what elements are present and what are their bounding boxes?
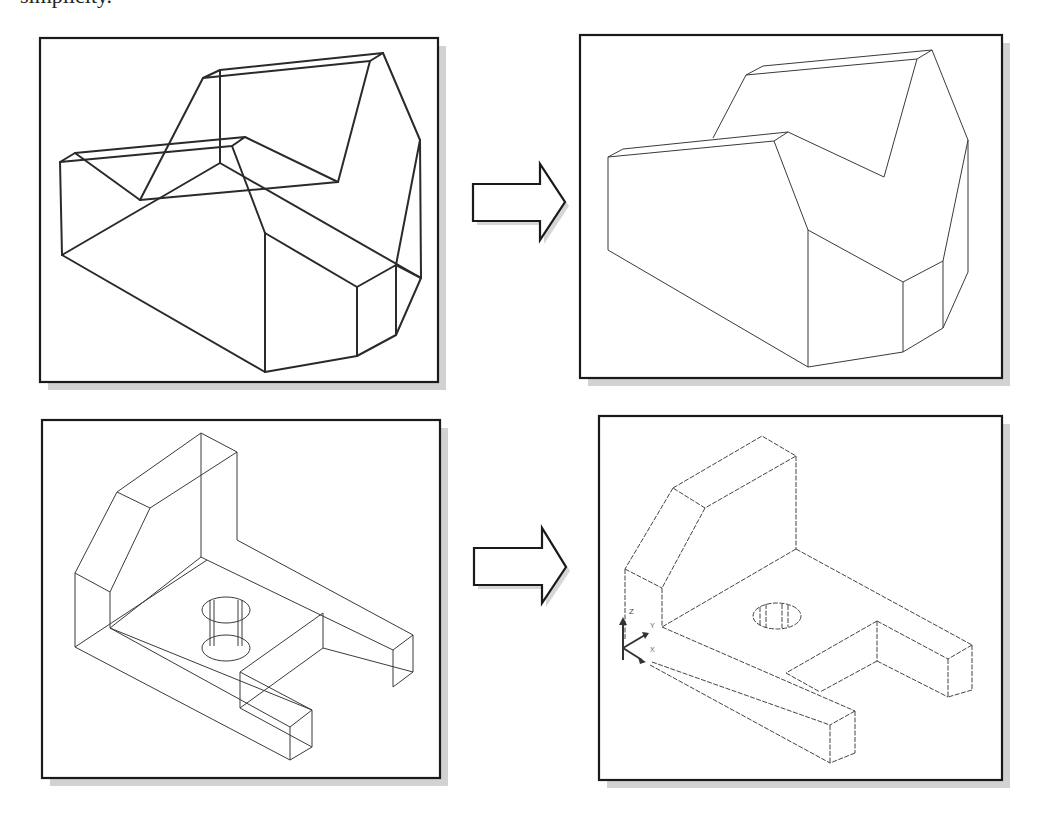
figure-panel-3 xyxy=(42,420,448,786)
figure-panel-1 xyxy=(40,38,446,390)
ucs-x-label: X xyxy=(650,646,655,653)
ucs-y-label: Y xyxy=(650,622,655,629)
right-arrow-icon xyxy=(474,528,570,607)
ucs-z-label: Z xyxy=(629,607,634,616)
figure-panel-4: Z Y X xyxy=(599,416,1010,788)
right-arrow-icon xyxy=(473,164,569,244)
panel-frame xyxy=(599,416,1002,780)
panel-frame xyxy=(42,420,440,778)
panel-frame xyxy=(40,38,438,382)
panel-frame xyxy=(580,35,1002,378)
figure-panel-2 xyxy=(580,35,1010,386)
